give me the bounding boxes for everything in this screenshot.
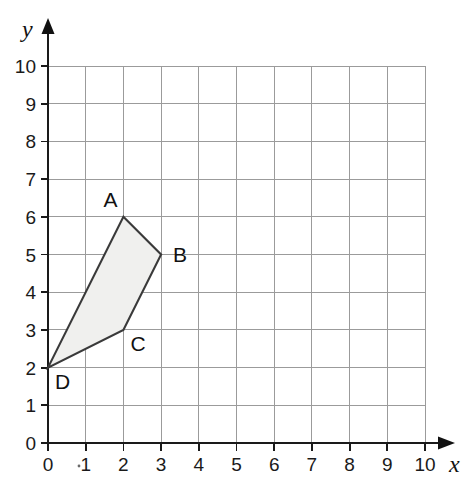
y-axis-label: y	[20, 16, 33, 42]
y-tick-label: 9	[25, 94, 36, 115]
tick-labels: 012345678910012345678910	[15, 56, 436, 475]
y-tick-label: 5	[25, 245, 36, 266]
scan-artifact-dot	[78, 465, 81, 468]
x-tick-label: 1	[80, 454, 91, 475]
y-tick-label: 0	[25, 433, 36, 454]
x-tick-label: 3	[156, 454, 167, 475]
x-tick-label: 5	[231, 454, 242, 475]
y-tick-label: 8	[25, 131, 36, 152]
x-tick-label: 7	[307, 454, 318, 475]
x-tick-label: 2	[118, 454, 129, 475]
y-tick-label: 2	[25, 358, 36, 379]
x-tick-label: 9	[382, 454, 393, 475]
y-tick-label: 3	[25, 320, 36, 341]
y-tick-label: 1	[25, 395, 36, 416]
x-tick-label: 8	[344, 454, 355, 475]
vertex-label-B: B	[173, 243, 187, 266]
vertex-label-D: D	[55, 370, 70, 393]
vertex-label-A: A	[103, 188, 117, 211]
axes	[42, 18, 456, 450]
y-tick-label: 7	[25, 169, 36, 190]
x-tick-label: 6	[269, 454, 280, 475]
graph-canvas: 012345678910012345678910 ABCD y x	[0, 0, 472, 484]
x-axis-arrowhead	[438, 437, 455, 450]
x-axis-label: x	[448, 451, 460, 477]
x-tick-label: 4	[194, 454, 205, 475]
y-tick-label: 10	[15, 56, 36, 77]
y-tick-label: 6	[25, 207, 36, 228]
coordinate-plane-figure: 012345678910012345678910 ABCD y x	[0, 0, 472, 484]
x-tick-label: 0	[43, 454, 54, 475]
x-tick-label: 10	[414, 454, 435, 475]
tick-marks	[41, 66, 425, 451]
y-tick-label: 4	[25, 282, 36, 303]
vertex-label-C: C	[130, 332, 145, 355]
y-axis-arrowhead	[42, 18, 55, 34]
